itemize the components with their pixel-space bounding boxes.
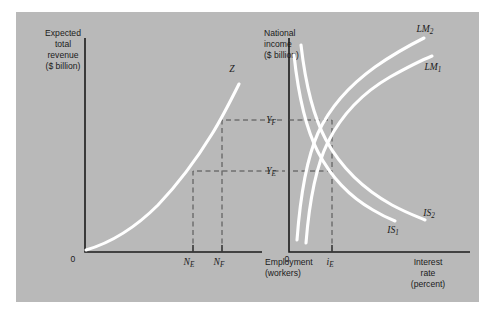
left-xtick-label-nf: NF: [213, 256, 225, 269]
z-curve-label: Z: [229, 63, 235, 74]
lm2-curve-label: LM2: [416, 23, 434, 36]
right-x-axis-label-line3: (percent): [411, 279, 446, 289]
left-panel: Expected total revenue ($ billion) 0 NE …: [45, 28, 313, 278]
left-y-axis-label-line3: revenue: [47, 50, 78, 60]
economics-figure: Expected total revenue ($ billion) 0 NE …: [0, 0, 495, 319]
left-y-axis-label-line1: Expected: [45, 28, 81, 38]
left-xtick-label-ne: NE: [183, 256, 195, 269]
right-ytick-label-ye: YE: [266, 165, 276, 178]
left-panel-axes: [85, 38, 262, 252]
right-xtick-label-ie: iE: [326, 256, 334, 269]
guide-nf-to-yf: [222, 120, 285, 252]
right-panel: National income ($ billion) 0 YF YE iE I…: [264, 23, 470, 289]
left-origin-label: 0: [71, 254, 76, 264]
right-y-axis-label-line1: National: [264, 28, 296, 38]
right-y-axis-label-line2: income: [264, 39, 292, 49]
left-x-axis-label-line2: (workers): [265, 268, 301, 278]
guide-ne-to-ye: [193, 171, 285, 252]
diagram-canvas: Expected total revenue ($ billion) 0 NE …: [0, 0, 495, 319]
left-y-axis-label-line4: ($ billion): [46, 61, 81, 71]
left-y-axis-label-line2: total: [55, 39, 71, 49]
is1-curve-label: IS1: [386, 224, 399, 237]
lm1-curve-label: LM1: [424, 61, 442, 74]
right-origin-label: 0: [285, 254, 290, 264]
right-ytick-label-yf: YF: [266, 114, 276, 127]
right-x-axis-label-line2: rate: [421, 268, 436, 278]
z-curve: [86, 84, 239, 250]
right-x-axis-label-line1: Interest: [414, 257, 443, 267]
